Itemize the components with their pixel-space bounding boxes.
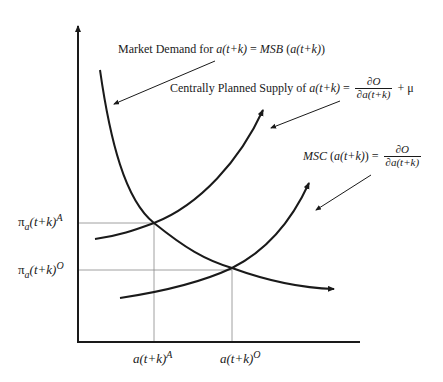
planned-supply-curve — [95, 110, 263, 239]
msc-pointer-arrow — [316, 175, 371, 210]
fraction-denominator: ∂a(t+k) — [355, 89, 393, 101]
fraction-denominator: ∂a(t+k) — [384, 157, 422, 169]
planned-supply-label: Centrally Planned Supply of a(t+k) = ∂O∂… — [170, 76, 414, 100]
pi-symbol: π — [18, 262, 25, 277]
demand-label: Market Demand for a(t+k) = MSB (a(t+k)) — [118, 43, 325, 55]
msc-label-name: MSC — [303, 149, 327, 163]
diagram-canvas — [0, 0, 443, 382]
planned-supply-fraction: ∂O∂a(t+k) — [355, 76, 393, 100]
tick-superscript: A — [166, 349, 172, 360]
tick-superscript: O — [253, 349, 260, 360]
tick-var: (t+k) — [30, 262, 57, 277]
y-tick-price-o: πa(t+k)O — [18, 261, 64, 280]
tick-superscript: O — [56, 260, 63, 271]
planned-supply-label-eq: = — [340, 81, 353, 95]
equilibrium-guides — [79, 223, 232, 341]
tick-superscript: A — [56, 212, 62, 223]
demand-label-rhs: MSB — [260, 42, 283, 56]
y-tick-price-a: πa(t+k)A — [18, 213, 63, 232]
tick-var: a(t+k) — [220, 351, 253, 366]
planned-supply-pointer-arrow — [271, 101, 340, 128]
demand-label-prefix: Market Demand for — [118, 42, 216, 56]
demand-label-eq: = — [247, 42, 260, 56]
demand-label-rhs-close: ) — [321, 42, 325, 56]
tick-var: a(t+k) — [133, 351, 166, 366]
x-tick-qty-o: a(t+k)O — [220, 350, 261, 365]
x-tick-qty-a: a(t+k)A — [133, 350, 172, 365]
fraction-numerator: ∂O — [355, 76, 393, 89]
planned-supply-label-var: a(t+k) — [309, 81, 340, 95]
demand-label-var: a(t+k) — [216, 42, 247, 56]
msc-label-var: a(t+k) — [334, 149, 365, 163]
tick-var: (t+k) — [30, 214, 57, 229]
planned-supply-label-prefix: Centrally Planned Supply of — [170, 81, 309, 95]
msc-label-open: ( — [327, 149, 334, 163]
demand-label-rhs-var: a(t+k) — [290, 42, 321, 56]
planned-supply-label-suffix: + μ — [394, 81, 413, 95]
msc-curve — [120, 183, 309, 298]
fraction-numerator: ∂O — [384, 144, 422, 157]
pi-symbol: π — [18, 214, 25, 229]
msc-fraction: ∂O∂a(t+k) — [384, 144, 422, 168]
msc-label: MSC (a(t+k)) = ∂O∂a(t+k) — [303, 144, 423, 168]
msc-label-close: ) = — [365, 149, 382, 163]
